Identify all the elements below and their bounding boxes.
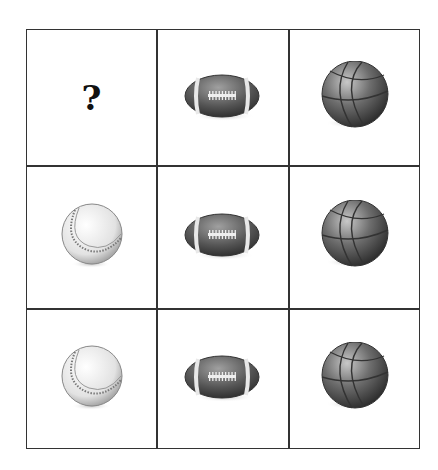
grid-cell: [288, 308, 421, 450]
grid-cell: ?: [27, 30, 156, 165]
basketball-icon: [318, 200, 392, 274]
grid-cell: [27, 308, 156, 450]
grid-cell: [288, 30, 421, 165]
basketball-icon: [318, 61, 392, 135]
basketball-icon: [318, 342, 392, 416]
puzzle-grid: ?: [26, 29, 420, 449]
baseball-icon: [57, 342, 127, 416]
grid-cell: [288, 165, 421, 308]
grid-cell: [156, 165, 288, 308]
grid-cell: [156, 308, 288, 450]
grid-cell: [156, 30, 288, 165]
football-icon: [182, 347, 262, 411]
football-icon: [182, 66, 262, 130]
question-mark: ?: [82, 78, 102, 118]
football-icon: [182, 205, 262, 269]
grid-cell: [27, 165, 156, 308]
baseball-icon: [57, 200, 127, 274]
